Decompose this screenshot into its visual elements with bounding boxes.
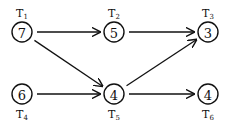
node-t2: 5T2 <box>104 7 124 42</box>
node-t1: 7T1 <box>12 7 32 42</box>
edge-t1-to-t5-arrow-icon <box>34 40 102 86</box>
task-graph-diagram: 7T15T23T36T44T54T6 <box>0 0 227 126</box>
node-label: T3 <box>202 7 214 21</box>
node-weight: 4 <box>110 88 118 103</box>
node-t3: 3T3 <box>198 7 218 42</box>
node-weight: 7 <box>18 26 26 41</box>
node-label: T4 <box>16 108 28 122</box>
node-weight: 5 <box>110 26 118 41</box>
node-label: T6 <box>202 108 214 122</box>
node-t4: 6T4 <box>12 84 32 122</box>
node-weight: 4 <box>204 88 212 103</box>
node-label: T5 <box>108 108 120 122</box>
node-t6: 4T6 <box>198 84 218 122</box>
node-weight: 3 <box>204 26 212 41</box>
edge-t5-to-t3-arrow-icon <box>127 40 197 86</box>
node-label: T1 <box>16 7 28 21</box>
nodes-group: 7T15T23T36T44T54T6 <box>12 7 218 122</box>
node-weight: 6 <box>18 88 26 103</box>
node-label: T2 <box>108 7 120 21</box>
node-t5: 4T5 <box>104 84 124 122</box>
